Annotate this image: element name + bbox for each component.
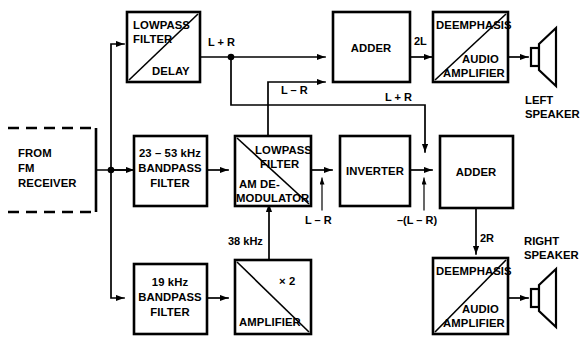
label-right-speaker: RIGHT SPEAKER <box>524 235 579 261</box>
signal-label-2l: 2L <box>414 35 427 47</box>
svg-text:LEFT: LEFT <box>525 94 553 106</box>
label-adder-top: ADDER <box>351 42 392 54</box>
signal-label-neg-lmr: –(L – R) <box>397 214 437 226</box>
svg-text:LOWPASS: LOWPASS <box>133 19 190 31</box>
svg-text:SPEAKER: SPEAKER <box>524 249 579 261</box>
signal-label-lpr-top: L + R <box>208 36 235 48</box>
svg-text:× 2: × 2 <box>279 275 295 287</box>
label-inverter: INVERTER <box>346 165 404 177</box>
svg-text:DELAY: DELAY <box>152 65 190 77</box>
svg-text:FM: FM <box>18 162 35 174</box>
svg-text:FILTER: FILTER <box>150 177 189 189</box>
svg-text:DEEMPHASIS: DEEMPHASIS <box>436 19 512 31</box>
block-diagram-canvas: FROM FM RECEIVER LOWPASS FILTER DELAY 23… <box>0 0 584 343</box>
svg-text:LOWPASS: LOWPASS <box>255 144 312 156</box>
signal-label-lmr-top: L – R <box>281 84 308 96</box>
svg-text:RIGHT: RIGHT <box>524 235 559 247</box>
svg-text:FROM: FROM <box>18 147 52 159</box>
svg-text:AM DE-: AM DE- <box>239 178 280 190</box>
svg-text:FILTER: FILTER <box>133 33 172 45</box>
svg-text:19 kHz: 19 kHz <box>152 276 189 288</box>
speaker-left-icon <box>531 28 556 86</box>
svg-text:BANDPASS: BANDPASS <box>138 162 202 174</box>
svg-text:MODULATOR: MODULATOR <box>236 192 309 204</box>
svg-text:AUDIO: AUDIO <box>462 303 499 315</box>
svg-text:RECEIVER: RECEIVER <box>18 177 77 189</box>
svg-text:AUDIO: AUDIO <box>462 53 499 65</box>
diagram-svg: FROM FM RECEIVER LOWPASS FILTER DELAY 23… <box>0 0 584 343</box>
svg-text:AMPLIFIER: AMPLIFIER <box>443 67 505 79</box>
svg-text:AMPLIFIER: AMPLIFIER <box>443 317 505 329</box>
svg-text:23 – 53 kHz: 23 – 53 kHz <box>139 147 201 159</box>
signal-label-lpr-mid: L + R <box>385 91 412 103</box>
label-adder-bottom: ADDER <box>456 166 497 178</box>
label-source: FROM FM RECEIVER <box>18 147 77 189</box>
signal-label-2r: 2R <box>480 232 494 244</box>
label-left-speaker: LEFT SPEAKER <box>525 94 580 120</box>
svg-text:AMPLIFIER: AMPLIFIER <box>239 316 301 328</box>
svg-text:FILTER: FILTER <box>150 306 189 318</box>
svg-text:SPEAKER: SPEAKER <box>525 108 580 120</box>
svg-text:FILTER: FILTER <box>260 158 299 170</box>
speaker-right-icon <box>531 269 556 327</box>
signal-label-38khz: 38 kHz <box>228 235 263 247</box>
signal-label-lmr-bottom: L – R <box>305 214 332 226</box>
svg-text:DEEMPHASIS: DEEMPHASIS <box>436 265 512 277</box>
svg-text:BANDPASS: BANDPASS <box>138 291 202 303</box>
